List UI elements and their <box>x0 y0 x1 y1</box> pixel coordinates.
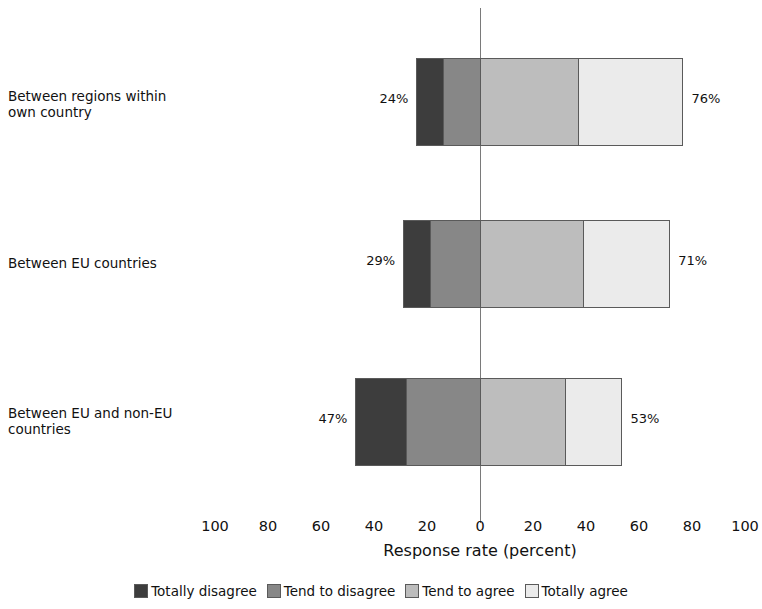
legend-item-tend-to-disagree[interactable]: Tend to disagree <box>267 583 396 599</box>
legend-swatch-icon <box>525 584 539 598</box>
legend-label: Totally agree <box>542 583 628 599</box>
legend-label: Tend to agree <box>422 583 514 599</box>
plot-area: Between regions within own country Betwe… <box>0 0 762 515</box>
x-axis-tick-0: 100 <box>195 518 235 534</box>
stacked-bar <box>355 378 622 466</box>
bar-segment-tend-to-agree <box>481 59 579 145</box>
bar-row: 29%71% <box>0 220 762 306</box>
legend-item-totally-agree[interactable]: Totally agree <box>525 583 628 599</box>
x-axis-tick-2: 60 <box>301 518 341 534</box>
bar-segment-tend-to-disagree <box>407 379 481 465</box>
agree-total-label: 76% <box>691 91 737 106</box>
bar-segment-tend-to-agree <box>481 379 566 465</box>
x-axis-tick-6: 20 <box>513 518 553 534</box>
legend-item-tend-to-agree[interactable]: Tend to agree <box>405 583 514 599</box>
agree-total-label: 71% <box>678 253 724 268</box>
disagree-total-label: 29% <box>351 253 395 268</box>
bar-segment-totally-agree <box>584 221 669 307</box>
bar-row: 47%53% <box>0 378 762 464</box>
stacked-bar <box>403 220 670 308</box>
legend-swatch-icon <box>267 584 281 598</box>
legend-swatch-icon <box>405 584 419 598</box>
diverging-stacked-bar-chart: Between regions within own country Betwe… <box>0 0 762 609</box>
stacked-bar <box>416 58 683 146</box>
legend-label: Tend to disagree <box>284 583 396 599</box>
agree-total-label: 53% <box>630 411 676 426</box>
chart-legend: Totally disagreeTend to disagreeTend to … <box>0 583 762 599</box>
x-axis-tick-3: 40 <box>354 518 394 534</box>
bar-row: 24%76% <box>0 58 762 144</box>
bar-segment-tend-to-agree <box>481 221 584 307</box>
x-axis-tick-7: 40 <box>566 518 606 534</box>
bar-segment-totally-disagree <box>417 59 444 145</box>
legend-label: Totally disagree <box>151 583 257 599</box>
x-axis-tick-5: 0 <box>460 518 500 534</box>
disagree-total-label: 47% <box>303 411 347 426</box>
bar-segment-totally-agree <box>566 379 622 465</box>
x-axis-tick-10: 100 <box>725 518 762 534</box>
x-axis-tick-4: 20 <box>407 518 447 534</box>
x-axis-tick-8: 60 <box>619 518 659 534</box>
bar-segment-tend-to-disagree <box>431 221 481 307</box>
x-axis-title: Response rate (percent) <box>215 541 745 560</box>
x-axis-tick-9: 80 <box>672 518 712 534</box>
bar-segment-tend-to-disagree <box>444 59 481 145</box>
bar-segment-totally-disagree <box>404 221 431 307</box>
legend-swatch-icon <box>134 584 148 598</box>
bar-segment-totally-disagree <box>356 379 406 465</box>
disagree-total-label: 24% <box>364 91 408 106</box>
legend-item-totally-disagree[interactable]: Totally disagree <box>134 583 257 599</box>
bar-segment-totally-agree <box>579 59 682 145</box>
x-axis-tick-1: 80 <box>248 518 288 534</box>
